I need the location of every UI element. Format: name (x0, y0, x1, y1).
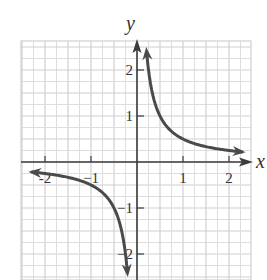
x-tick-label: 2 (225, 170, 233, 186)
hyperbola-graph: -2−112−2−112 y x (0, 0, 267, 280)
x-axis-label: x (255, 150, 265, 172)
y-tick-label: −1 (117, 200, 133, 216)
y-axis-label: y (124, 12, 135, 35)
y-tick-label: 1 (126, 108, 134, 124)
grid (21, 41, 251, 280)
y-tick-label: 2 (126, 62, 134, 78)
axes (21, 39, 253, 280)
x-tick-label: 1 (179, 170, 187, 186)
grid-border (21, 41, 251, 280)
